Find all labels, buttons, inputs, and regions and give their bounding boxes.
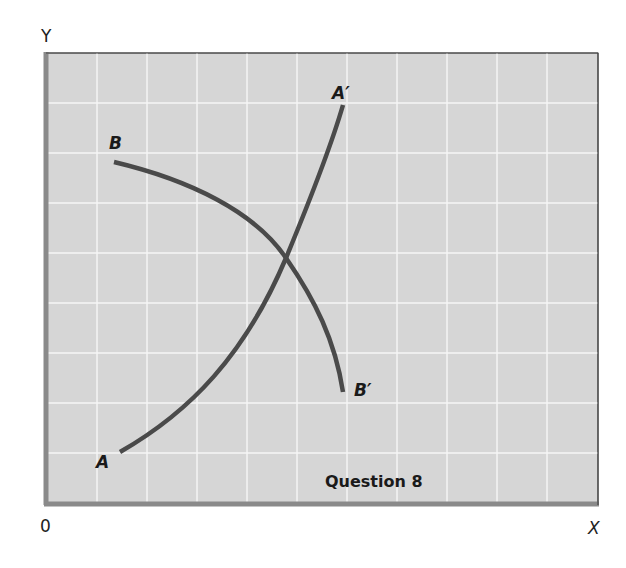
- chart: Y X 0 A A′ B B′ Question 8: [0, 0, 626, 568]
- label-a-prime: A′: [330, 83, 350, 103]
- label-b-prime: B′: [354, 380, 372, 400]
- plot-area: [47, 53, 598, 504]
- label-a: A: [94, 452, 109, 472]
- label-b: B: [109, 133, 122, 153]
- x-axis-label: X: [587, 518, 600, 538]
- origin-label: 0: [40, 516, 51, 536]
- chart-caption: Question 8: [325, 472, 423, 491]
- y-axis-label: Y: [40, 26, 52, 46]
